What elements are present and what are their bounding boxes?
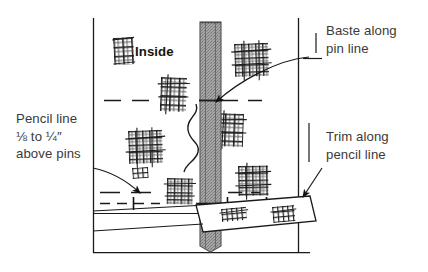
leader-trim [303, 123, 322, 197]
plaid-swatch [112, 37, 135, 65]
plaid-swatch [235, 162, 272, 200]
label-inside: Inside [135, 44, 174, 59]
plaid-swatch [231, 40, 272, 81]
callout-pencil-line-above-pins: Pencil line ⅛ to ¼″ above pins [16, 110, 81, 163]
callout-trim-along-pencil-line: Trim along pencil line [326, 128, 389, 163]
plaid-swatch [164, 178, 196, 205]
basting-thread [184, 104, 198, 172]
plaid-swatch [219, 207, 249, 222]
plaid-swatch [157, 74, 190, 115]
callout-baste-along-pin-line: Baste along pin line [326, 22, 397, 57]
sewing-diagram-figure: Inside Baste along pin line Trim along p… [0, 0, 428, 272]
leader-baste [216, 33, 322, 102]
plaid-swatch [270, 205, 297, 223]
plaid-swatch [125, 127, 166, 168]
plaid-swatch-group [112, 37, 272, 205]
plaid-swatch [132, 167, 149, 179]
